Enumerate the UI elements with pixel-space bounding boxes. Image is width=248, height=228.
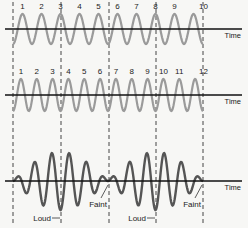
diagram-canvas: 12345678910123456789101112LoudFaintLoudF… bbox=[0, 0, 248, 228]
cycle-label: 9 bbox=[172, 2, 177, 11]
time-axes bbox=[5, 29, 242, 181]
cycle-label: 2 bbox=[39, 2, 44, 11]
cycle-label: 1 bbox=[19, 67, 24, 76]
time-axis-label: Time bbox=[225, 31, 241, 40]
faint-pointer bbox=[195, 185, 202, 198]
faint-label: Faint bbox=[89, 200, 108, 209]
faint-pointer bbox=[101, 185, 108, 198]
cycle-label: 10 bbox=[159, 67, 168, 76]
cycle-label: 4 bbox=[66, 67, 71, 76]
cycle-label: 6 bbox=[115, 2, 120, 11]
cycle-label: 2 bbox=[35, 67, 40, 76]
cycle-label: 6 bbox=[98, 67, 103, 76]
cycle-label: 12 bbox=[199, 67, 208, 76]
cycle-label: 7 bbox=[114, 67, 119, 76]
loud-label: Loud bbox=[128, 214, 146, 223]
loud-label: Loud bbox=[33, 214, 51, 223]
cycle-label: 3 bbox=[58, 2, 63, 11]
time-axis-label: Time bbox=[225, 183, 241, 192]
time-axis-label: Time bbox=[225, 97, 241, 106]
cycle-label: 9 bbox=[145, 67, 150, 76]
faint-label: Faint bbox=[183, 200, 202, 209]
beats-diagram: 12345678910123456789101112LoudFaintLoudF… bbox=[0, 0, 248, 228]
cycle-label: 11 bbox=[175, 67, 184, 76]
cycle-label: 8 bbox=[153, 2, 158, 11]
cycle-label: 10 bbox=[199, 2, 208, 11]
cycle-label: 7 bbox=[134, 2, 139, 11]
cycle-label: 5 bbox=[82, 67, 87, 76]
cycle-label: 1 bbox=[20, 2, 25, 11]
cycle-label: 5 bbox=[96, 2, 101, 11]
cycle-label: 4 bbox=[77, 2, 82, 11]
cycle-label: 3 bbox=[50, 67, 55, 76]
cycle-label: 8 bbox=[130, 67, 135, 76]
